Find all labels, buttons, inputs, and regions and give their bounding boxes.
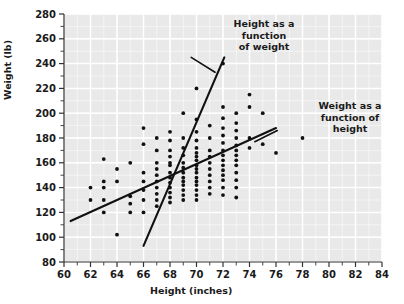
svg-text:76: 76 <box>269 269 283 280</box>
svg-text:160: 160 <box>35 157 56 168</box>
svg-text:82: 82 <box>349 269 363 280</box>
svg-text:84: 84 <box>375 269 389 280</box>
weight-as-function-of-height-label: Weight as a function of height <box>302 100 398 135</box>
svg-text:78: 78 <box>296 269 310 280</box>
svg-text:62: 62 <box>84 269 98 280</box>
svg-text:72: 72 <box>216 269 230 280</box>
svg-text:100: 100 <box>35 232 56 243</box>
svg-text:240: 240 <box>35 58 56 69</box>
scatter-plot-figure: 6062646668707274767880828480100120140160… <box>0 0 404 304</box>
svg-text:180: 180 <box>35 133 56 144</box>
svg-text:80: 80 <box>42 257 56 268</box>
svg-text:70: 70 <box>190 269 204 280</box>
svg-text:220: 220 <box>35 83 56 94</box>
svg-text:64: 64 <box>110 269 124 280</box>
svg-text:120: 120 <box>35 207 56 218</box>
height-as-function-of-weight-label: Height as a function of weight <box>214 18 314 53</box>
svg-text:280: 280 <box>35 9 56 20</box>
svg-text:80: 80 <box>322 269 336 280</box>
svg-text:200: 200 <box>35 108 56 119</box>
plot-canvas: 6062646668707274767880828480100120140160… <box>0 0 404 304</box>
svg-text:260: 260 <box>35 33 56 44</box>
y-axis-label: Weight (lb) <box>2 40 13 100</box>
svg-text:74: 74 <box>243 269 257 280</box>
svg-text:140: 140 <box>35 182 56 193</box>
x-axis-label: Height (inches) <box>150 285 232 296</box>
svg-text:68: 68 <box>163 269 177 280</box>
svg-text:60: 60 <box>57 269 71 280</box>
svg-text:66: 66 <box>137 269 151 280</box>
